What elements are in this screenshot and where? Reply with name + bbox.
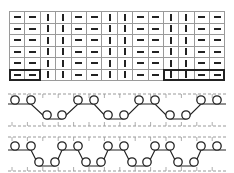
knitting-chart-grid — [9, 11, 225, 81]
purl-symbol-icon — [214, 51, 221, 53]
chart-cell-knit — [40, 46, 55, 58]
purl-symbol-icon — [214, 74, 221, 76]
purl-symbol-icon — [214, 16, 221, 18]
chart-cell-purl — [25, 46, 40, 58]
knit-symbol-icon — [170, 60, 172, 67]
chart-cell-knit — [56, 58, 71, 70]
chart-cell-knit — [163, 58, 178, 70]
stitch-loop-icon — [58, 142, 66, 150]
chart-cell-purl — [71, 46, 86, 58]
purl-symbol-icon — [214, 62, 221, 64]
chart-cell-knit — [117, 12, 132, 24]
purl-symbol-icon — [14, 74, 21, 76]
chart-cell-knit — [102, 46, 117, 58]
knit-symbol-icon — [109, 37, 111, 44]
purl-symbol-icon — [137, 39, 144, 41]
purl-symbol-icon — [152, 28, 159, 30]
stitch-diagram-1 — [0, 88, 234, 133]
purl-symbol-icon — [198, 39, 205, 41]
chart-row — [10, 12, 225, 24]
chart-cell-purl — [133, 69, 148, 81]
knit-symbol-icon — [109, 25, 111, 32]
chart-cell-purl — [71, 69, 86, 81]
chart-cell-knit — [40, 69, 55, 81]
stitch-loop-icon — [43, 111, 51, 119]
purl-symbol-icon — [91, 74, 98, 76]
purl-symbol-icon — [75, 39, 82, 41]
chart-cell-purl — [10, 35, 25, 47]
chart-cell-purl — [133, 46, 148, 58]
knit-symbol-icon — [170, 14, 172, 21]
chart-cell-purl — [86, 35, 101, 47]
stitch-loop-icon — [135, 96, 143, 104]
purl-symbol-icon — [198, 62, 205, 64]
chart-cell-knit — [117, 35, 132, 47]
chart-cell-purl — [210, 46, 225, 58]
chart-cell-knit — [117, 58, 132, 70]
chart-cell-purl — [210, 58, 225, 70]
purl-symbol-icon — [198, 16, 205, 18]
chart-cell-purl — [133, 58, 148, 70]
stitch-loop-icon — [82, 158, 90, 166]
stitch-loop-icon — [151, 96, 159, 104]
chart-cell-knit — [56, 12, 71, 24]
knit-symbol-icon — [62, 71, 64, 78]
stitch-loop-icon — [35, 158, 43, 166]
chart-cell-knit — [56, 23, 71, 35]
chart-cell-knit — [163, 12, 178, 24]
chart-cell-purl — [10, 58, 25, 70]
chart-cell-purl — [210, 12, 225, 24]
knit-symbol-icon — [185, 48, 187, 55]
knit-symbol-icon — [170, 25, 172, 32]
stitch-loop-icon — [74, 142, 82, 150]
chart-cell-purl — [71, 35, 86, 47]
chart-row — [10, 23, 225, 35]
knit-symbol-icon — [109, 48, 111, 55]
knit-symbol-icon — [124, 60, 126, 67]
chart-cell-knit — [102, 12, 117, 24]
chart-cell-purl — [133, 12, 148, 24]
chart-cell-purl — [148, 23, 163, 35]
chart-cell-purl — [210, 69, 225, 81]
purl-symbol-icon — [14, 51, 21, 53]
chart-cell-knit — [117, 46, 132, 58]
purl-symbol-icon — [91, 16, 98, 18]
knit-symbol-icon — [109, 71, 111, 78]
stitch-loop-icon — [213, 142, 221, 150]
purl-symbol-icon — [14, 28, 21, 30]
stitch-loop-icon — [213, 96, 221, 104]
stitch-loop-icon — [166, 111, 174, 119]
chart-cell-knit — [102, 23, 117, 35]
knit-symbol-icon — [47, 14, 49, 21]
knit-symbol-icon — [62, 25, 64, 32]
purl-symbol-icon — [29, 62, 36, 64]
chart-cell-knit — [163, 35, 178, 47]
knit-symbol-icon — [124, 37, 126, 44]
stitch-loop-icon — [90, 96, 98, 104]
stitch-loop-icon — [197, 96, 205, 104]
stitch-loop-icon — [97, 158, 105, 166]
knit-symbol-icon — [47, 48, 49, 55]
stitch-loop-icon — [51, 158, 59, 166]
chart-row — [10, 46, 225, 58]
chart-row — [10, 35, 225, 47]
chart-cell-purl — [210, 23, 225, 35]
chart-cell-purl — [148, 46, 163, 58]
chart-cell-purl — [210, 35, 225, 47]
purl-symbol-icon — [137, 74, 144, 76]
chart-cell-purl — [86, 58, 101, 70]
purl-symbol-icon — [198, 28, 205, 30]
knit-symbol-icon — [47, 37, 49, 44]
purl-symbol-icon — [214, 28, 221, 30]
chart-cell-knit — [179, 46, 194, 58]
knit-symbol-icon — [62, 37, 64, 44]
chart-cell-purl — [25, 23, 40, 35]
chart-cell-purl — [133, 35, 148, 47]
purl-symbol-icon — [214, 39, 221, 41]
knit-symbol-icon — [185, 37, 187, 44]
knit-symbol-icon — [62, 60, 64, 67]
chart-cell-knit — [179, 23, 194, 35]
purl-symbol-icon — [14, 62, 21, 64]
knit-symbol-icon — [47, 60, 49, 67]
knit-symbol-icon — [185, 14, 187, 21]
